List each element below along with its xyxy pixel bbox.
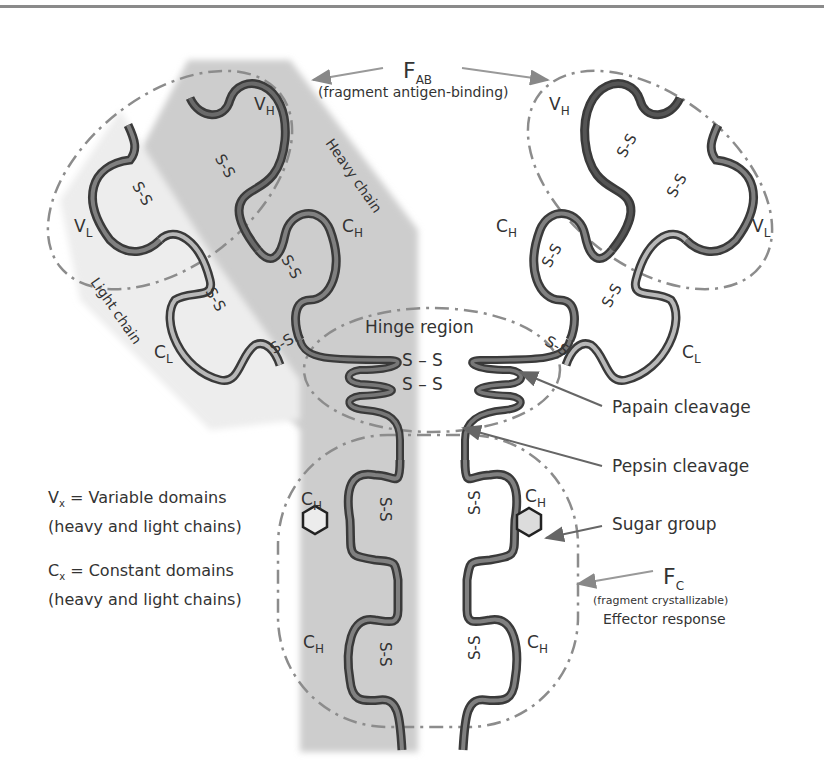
- svg-text:S-S: S-S: [663, 170, 691, 200]
- fab-label: FAB: [403, 58, 432, 87]
- hinge-bond-2: S – S: [402, 374, 443, 394]
- fab-description: (fragment antigen-binding): [318, 84, 509, 100]
- svg-text:S-S: S-S: [466, 491, 484, 515]
- papain-cleavage-label: Papain cleavage: [612, 397, 751, 417]
- svg-text:S-S: S-S: [466, 636, 484, 660]
- svg-text:S-S: S-S: [598, 280, 626, 310]
- pepsin-arrow: [463, 428, 602, 466]
- sugar-group-right: [517, 508, 541, 536]
- sugar-arrow: [546, 526, 602, 538]
- fab-arrow-left: [313, 68, 383, 80]
- fc-arrow: [578, 571, 653, 584]
- papain-arrow: [520, 372, 602, 406]
- ch1-right-label: CH: [496, 216, 517, 240]
- sugar-group-label: Sugar group: [612, 514, 717, 534]
- fc-label: FC: [663, 564, 684, 593]
- ch2-right-chain: [465, 460, 517, 610]
- antibody-diagram: S-S S-S S-S S-S S-S S-S S-S S-S S-S S-S …: [0, 0, 824, 761]
- cl-right-label: CL: [682, 342, 701, 366]
- hinge-region-label: Hinge region: [365, 317, 474, 337]
- svg-text:S-S: S-S: [538, 240, 566, 270]
- fab-arrow-right: [462, 68, 548, 80]
- vh-right-label: VH: [549, 94, 570, 118]
- svg-text:S-S: S-S: [376, 497, 394, 521]
- fc-role: Effector response: [603, 611, 726, 627]
- vh-right-chain: [585, 84, 680, 250]
- hinge-bond-1: S – S: [402, 350, 443, 370]
- svg-text:S-S: S-S: [376, 642, 394, 666]
- svg-text:S-S: S-S: [613, 130, 641, 160]
- ch3-right-chain: [463, 610, 517, 750]
- legend-constant: Cx = Constant domains (heavy and light c…: [48, 559, 242, 611]
- pepsin-cleavage-label: Pepsin cleavage: [612, 456, 749, 476]
- legend-variable: Vx = Variable domains (heavy and light c…: [48, 486, 242, 538]
- vl-right-label: VL: [752, 216, 771, 240]
- cl-right-chain: [566, 234, 686, 380]
- fc-description: (fragment crystallizable): [593, 594, 728, 607]
- ch2-right-label: CH: [525, 486, 546, 510]
- ch3-right-label: CH: [527, 632, 548, 656]
